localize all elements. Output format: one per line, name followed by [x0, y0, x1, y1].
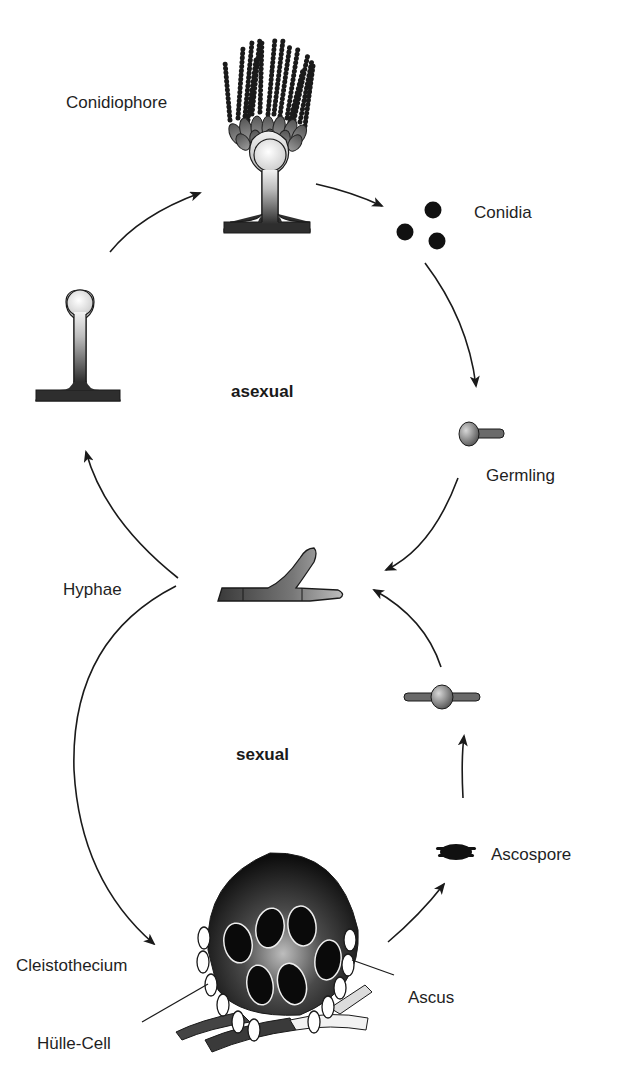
- ascospore-illustration: [436, 844, 476, 860]
- leader-hulle-cell: [142, 984, 208, 1022]
- conidiophore-stalk-illustration: [36, 290, 120, 401]
- arrow-germling-to-hyphae: [386, 478, 458, 570]
- label-phase-sexual: sexual: [236, 746, 289, 763]
- label-hyphae: Hyphae: [63, 581, 122, 598]
- arrow-stalk-to-conidiophore: [110, 193, 200, 252]
- germinating-ascospore-illustration: [404, 685, 480, 709]
- hyphae-illustration: [218, 548, 343, 601]
- arrow-germinating-to-hyphae: [374, 590, 441, 667]
- label-phase-asexual: asexual: [231, 383, 293, 400]
- diagram-graphics: [0, 0, 624, 1081]
- arrow-conidiophore-to-conidia: [316, 184, 382, 206]
- label-cleistothecium: Cleistothecium: [16, 957, 128, 974]
- arrow-conidia-to-germling: [425, 263, 476, 386]
- arrow-cleistothecium-to-ascospore: [388, 884, 444, 942]
- conidia-illustration: [397, 202, 446, 250]
- label-ascospore: Ascospore: [491, 846, 571, 863]
- conidiophore-illustration: [224, 38, 313, 233]
- label-conidia: Conidia: [474, 204, 532, 221]
- arrow-ascospore-to-germinating: [462, 736, 464, 798]
- label-germling: Germling: [486, 467, 555, 484]
- label-ascus: Ascus: [408, 989, 454, 1006]
- label-hulle-cell: Hülle-Cell: [37, 1035, 111, 1052]
- germling-illustration: [459, 422, 504, 446]
- arrow-hyphae-to-cleistothecium: [74, 586, 176, 944]
- cleistothecium-illustration: [176, 853, 372, 1052]
- cycle-arrows: [74, 184, 476, 944]
- label-conidiophore: Conidiophore: [66, 94, 167, 111]
- leader-ascus: [352, 960, 394, 975]
- life-cycle-diagram: Conidiophore Conidia asexual Germling Hy…: [0, 0, 624, 1081]
- arrow-hyphae-to-stalk: [86, 452, 178, 578]
